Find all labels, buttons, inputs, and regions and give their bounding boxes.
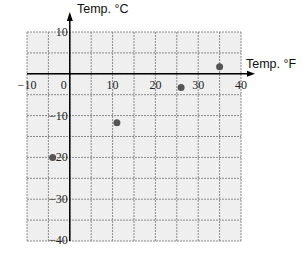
y-axis-arrow-icon [67,12,73,21]
x-tick-label: 40 [235,78,247,92]
x-axis-arrow-icon [247,71,255,77]
y-tick-label: 10 [56,25,68,39]
x-tick-label: 30 [192,78,204,92]
y-tick-label: −10 [49,109,68,123]
x-tick-label: 10 [107,78,119,92]
data-point [216,63,223,70]
y-tick-label: −40 [49,233,68,247]
x-axis-label: Temp. °F [246,57,297,71]
x-tick-label: 0 [61,78,67,92]
scatter-chart: −10010203040 10−10−20−30−40 Temp. °F Tem… [0,0,303,255]
y-axis-label: Temp. °C [77,2,129,16]
x-tick-label: 20 [149,78,161,92]
data-point [178,84,185,91]
data-point [113,119,120,126]
y-tick-label: −30 [49,192,68,206]
data-point [49,154,56,161]
x-tick-label: −10 [18,78,37,92]
